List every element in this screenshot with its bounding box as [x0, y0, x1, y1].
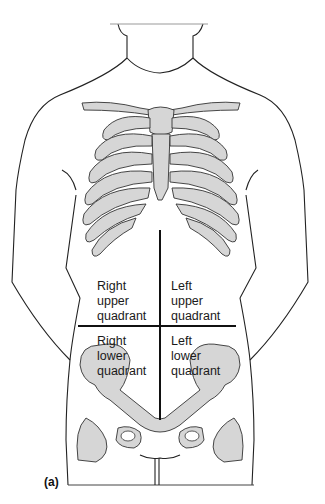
label-line: Right: [97, 279, 146, 294]
label-line: lower: [171, 349, 220, 364]
abdominal-quadrants-figure: Right upper quadrant Left upper quadrant…: [0, 0, 325, 504]
torso-illustration: [0, 0, 325, 504]
label-line: Right: [97, 334, 146, 349]
label-line: quadrant: [97, 309, 146, 324]
label-left-lower-quadrant: Left lower quadrant: [171, 334, 220, 379]
label-line: Left: [171, 334, 220, 349]
label-line: upper: [171, 294, 220, 309]
label-line: lower: [97, 349, 146, 364]
panel-label: (a): [44, 475, 59, 489]
label-left-upper-quadrant: Left upper quadrant: [171, 279, 220, 324]
label-right-upper-quadrant: Right upper quadrant: [97, 279, 146, 324]
label-line: quadrant: [171, 364, 220, 379]
label-right-lower-quadrant: Right lower quadrant: [97, 334, 146, 379]
label-line: quadrant: [171, 309, 220, 324]
label-line: quadrant: [97, 364, 146, 379]
label-line: Left: [171, 279, 220, 294]
label-line: upper: [97, 294, 146, 309]
